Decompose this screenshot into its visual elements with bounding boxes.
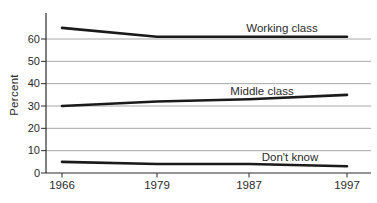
x-tick-label-1987: 1987 bbox=[227, 179, 271, 191]
series-label-working-class: Working class bbox=[236, 22, 328, 34]
series-label-middle-class: Middle class bbox=[218, 85, 306, 97]
x-tick-label-1966: 1966 bbox=[40, 179, 84, 191]
y-tick-label-60: 60 bbox=[13, 34, 40, 45]
y-tick-label-40: 40 bbox=[13, 78, 40, 89]
x-tick-label-1979: 1979 bbox=[135, 179, 179, 191]
y-tick-label-0: 0 bbox=[13, 168, 40, 179]
y-tick-label-30: 30 bbox=[13, 101, 40, 112]
y-tick-label-50: 50 bbox=[13, 56, 40, 67]
x-tick-label-1997: 1997 bbox=[325, 179, 369, 191]
line-chart-figure: Percent 0 10 20 30 40 50 60 1966 1979 19… bbox=[0, 0, 377, 203]
y-tick-label-20: 20 bbox=[13, 123, 40, 134]
y-tick-label-10: 10 bbox=[13, 145, 40, 156]
series-label-dont-know: Don't know bbox=[246, 151, 334, 163]
